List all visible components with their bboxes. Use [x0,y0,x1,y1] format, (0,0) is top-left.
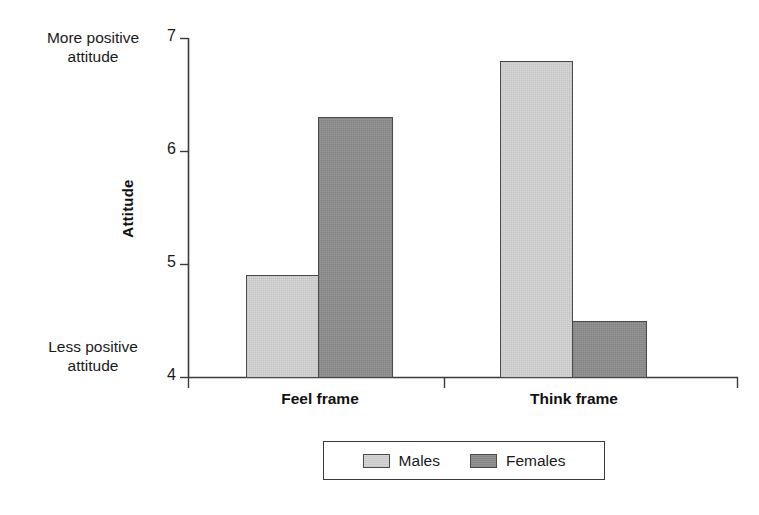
legend-entry-females[interactable]: Females [470,452,565,470]
legend-swatch-males-icon [363,454,390,468]
y-tick-label-6: 6 [150,140,176,158]
y-tick-label-5: 5 [150,253,176,271]
y-axis-title: Attitude [119,74,136,344]
bar-chart: More positive attitude Less positive att… [0,0,759,515]
bar-feel-males[interactable] [246,275,319,378]
legend-swatch-females-icon [470,454,497,468]
y-tick-label-7: 7 [150,27,176,45]
chart-legend: Males Females [323,441,605,480]
bar-feel-females[interactable] [318,117,393,378]
y-axis-low-anchor-label: Less positive attitude [18,337,168,376]
x-category-label-think-frame: Think frame [494,390,654,408]
y-tick-label-4: 4 [150,366,176,384]
x-category-label-feel-frame: Feel frame [240,390,400,408]
y-axis-high-anchor-label: More positive attitude [18,28,168,67]
legend-entry-males[interactable]: Males [363,452,440,470]
legend-label-males: Males [399,452,440,470]
legend-label-females: Females [506,452,565,470]
bar-think-females[interactable] [572,321,647,378]
bar-think-males[interactable] [500,61,573,378]
